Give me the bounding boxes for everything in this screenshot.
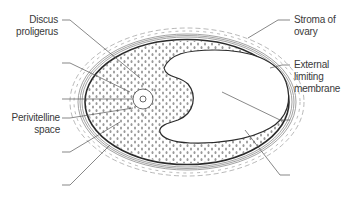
label-external-limiting-membrane: External limiting membrane <box>294 59 354 95</box>
label-line: proligerus <box>0 26 58 38</box>
label-line: membrane <box>294 83 354 95</box>
label-line: space <box>0 124 60 136</box>
label-line: Stroma of <box>294 14 354 26</box>
label-line: Discus <box>0 14 58 26</box>
label-perivitelline-space: Perivitelline space <box>0 112 60 136</box>
follicle-diagram: Discus proligerus Perivitelline space St… <box>0 0 355 198</box>
label-stroma-of-ovary: Stroma of ovary <box>294 14 354 38</box>
label-line: ovary <box>294 26 354 38</box>
label-line: External <box>294 59 354 71</box>
ovum-nucleus <box>140 96 146 102</box>
label-line: limiting <box>294 71 354 83</box>
label-discus-proligerus: Discus proligerus <box>0 14 58 38</box>
label-line: Perivitelline <box>0 112 60 124</box>
